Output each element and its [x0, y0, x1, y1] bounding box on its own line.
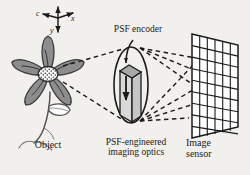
- coordinate-axes: [43, 7, 73, 32]
- axis-z-arrow: [43, 14, 58, 18]
- axis-label-x: x: [71, 14, 75, 23]
- figure-canvas: c x y PSF encoder Object PSF-engineered …: [0, 0, 250, 175]
- object-flower: [10, 36, 86, 150]
- axis-label-y: y: [50, 26, 54, 35]
- prism-side-face: [132, 72, 141, 122]
- flower-center: [38, 67, 58, 82]
- image-sensor-label: Image sensor: [186, 138, 242, 159]
- ray-object-upper: [63, 49, 123, 66]
- psf-encoder-label: PSF encoder: [96, 25, 180, 35]
- axis-label-z: c: [36, 9, 40, 18]
- psf-encoder-prism: [120, 65, 141, 122]
- flower-root-mid: [44, 128, 54, 139]
- object-label: Object: [14, 140, 82, 151]
- imaging-optics-label: PSF-engineered imaging optics: [90, 138, 182, 158]
- image-sensor-grid: [192, 34, 238, 138]
- flower-leaf: [49, 104, 70, 115]
- ray-sensor-7: [140, 118, 189, 121]
- psf-encoder-leader: [126, 40, 133, 63]
